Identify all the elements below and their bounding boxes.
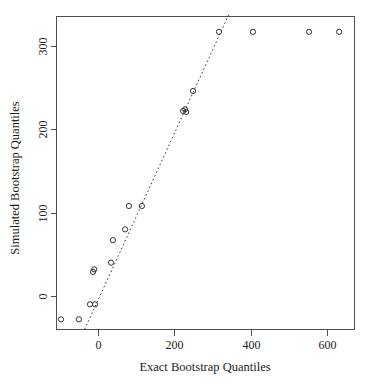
data-point-marker [139,203,144,208]
y-tick-label: 300 [36,38,50,56]
data-point-marker [126,203,131,208]
y-tick-label: 100 [36,205,50,223]
y-tick-label: 200 [36,121,50,139]
data-point-marker [216,29,221,34]
data-point-marker [306,29,311,34]
data-point-marker [250,29,255,34]
y-axis-title: Simulated Bootstrap Quantiles [8,101,22,255]
data-point-marker [123,227,128,232]
plot-frame [57,17,355,330]
chart-canvas: 0200400600 0100200300 Exact Bootstrap Qu… [0,0,369,384]
data-point-marker [110,238,115,243]
x-tick-label: 600 [319,338,337,352]
x-tick-label: 200 [166,338,184,352]
data-point-marker [58,317,63,322]
scatter-plot-figure: 0200400600 0100200300 Exact Bootstrap Qu… [0,0,369,384]
y-axis-ticks [51,47,57,297]
data-point-marker [190,88,195,93]
x-tick-label: 400 [243,338,261,352]
data-point-marker [87,302,92,307]
y-tick-label: 0 [36,294,50,300]
x-axis-ticks [99,330,328,336]
x-axis-tick-labels: 0200400600 [96,338,337,352]
data-point-marker [76,317,81,322]
identity-reference-line [85,13,230,330]
data-points [58,29,341,322]
x-axis-title: Exact Bootstrap Quantiles [139,360,270,374]
x-tick-label: 0 [96,338,102,352]
data-point-marker [337,29,342,34]
data-point-marker [108,260,113,265]
y-axis-tick-labels: 0100200300 [36,38,50,300]
reference-line [85,13,230,330]
